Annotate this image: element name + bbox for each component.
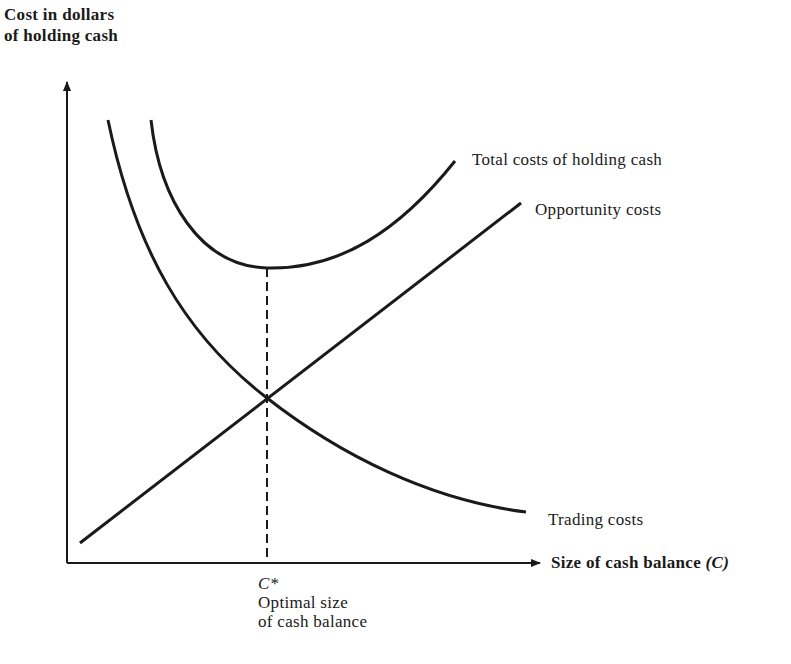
opportunity-costs-label: Opportunity costs [535,200,661,220]
total-costs-label: Total costs of holding cash [472,150,662,170]
trading-costs-curve [108,120,526,512]
y-axis-label: Cost in dollars of holding cash [4,4,118,46]
x-axis-variable: (C) [706,553,730,572]
y-axis-label-line1: Cost in dollars [4,4,118,25]
x-axis-label: Size of cash balance (C) [551,553,729,573]
optimal-cash-annotation: C* Optimal size of cash balance [258,574,367,631]
trading-costs-label: Trading costs [548,510,643,530]
c-star-symbol: C* [258,574,367,593]
optimal-label-line1: Optimal size [258,593,367,612]
x-axis-label-text: Size of cash balance [551,553,706,572]
y-axis-label-line2: of holding cash [4,25,118,46]
total-costs-curve [151,120,455,268]
opportunity-costs-line [80,203,521,543]
optimal-label-line2: of cash balance [258,612,367,631]
